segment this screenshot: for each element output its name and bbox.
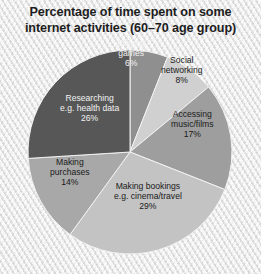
pie-chart: Playinggames6%Socialnetworking8%Accessin… [0, 0, 261, 274]
pie-slice-group [28, 50, 232, 254]
pie-chart-svg [0, 0, 261, 274]
chart-figure: Percentage of time spent on some interne… [0, 0, 261, 274]
pie-slice [28, 50, 130, 158]
